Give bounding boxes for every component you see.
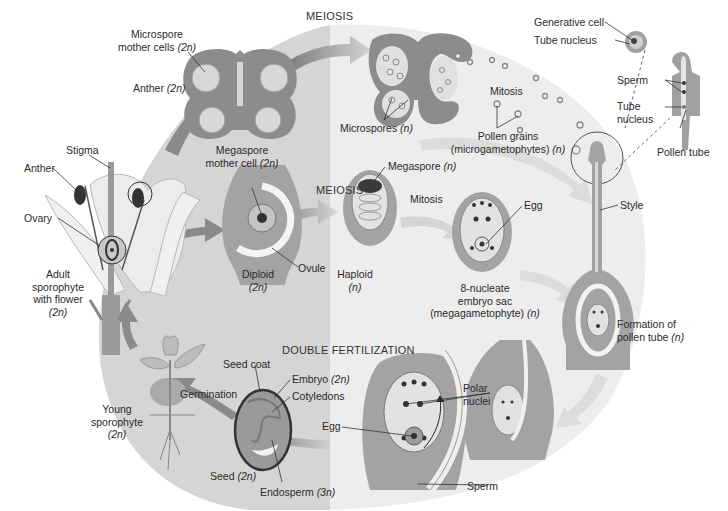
double-fertilization <box>362 350 466 490</box>
label-cotyledons: Cotyledons <box>292 390 345 403</box>
label-endosperm: Endosperm (3n) <box>260 486 335 499</box>
label-text: Megaspore <box>388 160 441 172</box>
label-text: Formation of <box>617 318 684 331</box>
label-text: Microspores <box>340 122 397 134</box>
label-embryo: Embryo (2n) <box>292 373 350 386</box>
label-text: 8-nucleate <box>420 282 550 295</box>
label-text: Microspore <box>112 28 202 41</box>
label-ploidy: (2n) <box>260 157 279 169</box>
label-egg-bottom: Egg <box>322 420 341 433</box>
label-text: mother cell <box>206 157 257 169</box>
label-embryo-sac: 8-nucleate embryo sac (megagametophyte) … <box>420 282 550 320</box>
label-microspores: Microspores (n) <box>340 122 413 135</box>
megaspore-ovule <box>343 170 397 246</box>
label-egg-top: Egg <box>524 199 543 212</box>
label-formation-pollen-tube: Formation of pollen tube (n) <box>617 318 684 343</box>
label-tube-nucleus-right: Tube nucleus <box>617 100 653 125</box>
label-text: sporophyte <box>84 416 150 429</box>
seed <box>235 390 291 470</box>
stage-meiosis-top: MEIOSIS <box>306 10 353 23</box>
label-megaspore: Megaspore (n) <box>388 160 456 173</box>
label-megaspore-mother-cell: Megaspore mother cell (2n) <box>196 144 288 169</box>
region-diploid-label: Diploid <box>232 268 284 281</box>
stage-germination: Germination <box>180 388 237 401</box>
anther-cross-section <box>183 49 297 139</box>
label-text: (microgametophytes) <box>451 143 550 155</box>
label-text: Pollen grains <box>438 130 578 143</box>
label-text: Polar <box>463 382 490 395</box>
label-ploidy: (2n) <box>167 82 186 94</box>
label-text: Endosperm <box>260 486 314 498</box>
stage-meiosis-mid: MEIOSIS <box>316 184 363 197</box>
region-haploid-ploidy: (n) <box>330 281 380 294</box>
label-text: nuclei <box>463 395 490 408</box>
label-sperm-bottom: Sperm <box>467 480 498 493</box>
label-adult-sporophyte: Adult sporophyte with flower (2n) <box>22 268 94 318</box>
label-ovule: Ovule <box>298 262 325 275</box>
label-ovary: Ovary <box>24 212 52 225</box>
label-pollen-grains: Pollen grains (microgametophytes) (n) <box>438 130 578 155</box>
stage-mitosis-top: Mitosis <box>490 85 523 98</box>
region-diploid: Diploid (2n) <box>232 268 284 293</box>
label-text: Anther <box>133 82 164 94</box>
label-text: nucleus <box>617 113 653 126</box>
region-haploid-label: Haploid <box>330 268 380 281</box>
label-style: Style <box>620 199 643 212</box>
label-ploidy: (n) <box>527 307 540 319</box>
label-pollen-tube: Pollen tube <box>657 146 710 159</box>
label-text: (megagametophyte) <box>430 307 524 319</box>
label-anther-top: Anther (2n) <box>133 82 186 95</box>
label-text: Tube <box>617 100 653 113</box>
label-seed: Seed (2n) <box>210 470 256 483</box>
label-ploidy: (2n) <box>237 470 256 482</box>
label-ploidy: (3n) <box>317 486 336 498</box>
ovule-mmc <box>222 165 302 285</box>
region-diploid-ploidy: (2n) <box>232 281 284 294</box>
label-text: Megaspore <box>196 144 288 157</box>
stage-mitosis-mid: Mitosis <box>410 193 443 206</box>
region-haploid: Haploid (n) <box>330 268 380 293</box>
label-ploidy: (n) <box>671 331 684 343</box>
label-microspore-mother-cells: Microspore mother cells (2n) <box>112 28 202 53</box>
label-text: Embryo <box>292 373 328 385</box>
angiosperm-life-cycle-diagram: MEIOSIS MEIOSIS DOUBLE FERTILIZATION Mit… <box>0 0 728 511</box>
label-ploidy: (2n) <box>331 373 350 385</box>
label-ploidy: (n) <box>552 143 565 155</box>
mature-anther <box>369 33 473 127</box>
label-sperm-top: Sperm <box>617 74 648 87</box>
label-text: embryo sac <box>420 295 550 308</box>
label-text: sporophyte <box>22 281 94 294</box>
label-ploidy: (n) <box>400 122 413 134</box>
label-anther-flower: Anther <box>24 162 55 175</box>
label-generative-cell: Generative cell <box>534 16 604 29</box>
label-ploidy: (2n) <box>22 306 94 319</box>
label-text: pollen tube <box>617 331 668 343</box>
label-ploidy: (2n) <box>177 41 196 53</box>
label-text: Adult <box>22 268 94 281</box>
stage-double-fertilization: DOUBLE FERTILIZATION <box>282 344 415 357</box>
label-tube-nucleus-top: Tube nucleus <box>534 34 597 47</box>
label-young-sporophyte: Young sporophyte (2n) <box>84 403 150 441</box>
label-ploidy: (n) <box>443 160 456 172</box>
label-polar-nuclei: Polar nuclei <box>463 382 490 407</box>
label-text: Seed <box>210 470 235 482</box>
embryo-sac <box>452 192 512 272</box>
label-ploidy: (2n) <box>84 428 150 441</box>
label-text: Young <box>84 403 150 416</box>
label-stigma: Stigma <box>66 144 99 157</box>
label-seed-coat: Seed coat <box>223 358 270 371</box>
label-text: mother cells <box>118 41 175 53</box>
label-text: with flower <box>22 293 94 306</box>
